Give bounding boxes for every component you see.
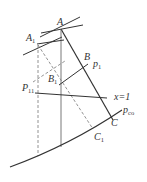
diagram-canvas: A A1 B p1 B1 P11 x=1 C pco C1 [0, 0, 147, 182]
label-p1: p1 [92, 58, 101, 70]
curve-p-co [10, 110, 122, 167]
label-b: B [84, 51, 90, 62]
label-c1: C1 [94, 131, 104, 143]
label-p11: P11 [21, 82, 34, 94]
label-a: A [56, 16, 64, 27]
label-c: C [111, 117, 118, 128]
tangent-line-a1-2 [37, 40, 64, 44]
line-x-equals-1 [35, 93, 107, 98]
label-p-co: pco [122, 104, 134, 116]
line-b-b1 [59, 64, 88, 85]
label-b1: B1 [48, 73, 57, 85]
label-a1: A1 [25, 32, 35, 44]
label-x-equals-1: x=1 [113, 91, 130, 102]
line-a-c [61, 29, 113, 120]
